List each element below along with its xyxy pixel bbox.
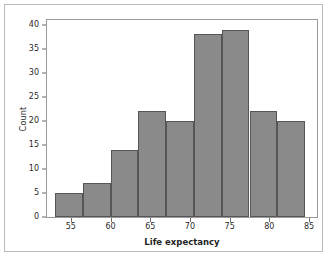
histogram-bar (222, 30, 250, 217)
y-axis-title: Count (19, 106, 28, 131)
y-tick-label: 5 (34, 189, 39, 197)
x-axis: 55606570758085 (46, 218, 318, 238)
histogram-bar (250, 111, 278, 217)
histogram-bar (138, 111, 166, 217)
histogram-bar (194, 34, 222, 217)
y-tick-label: 25 (29, 93, 39, 101)
x-tick-label: 70 (185, 223, 195, 231)
x-tick-label: 80 (264, 223, 274, 231)
y-tick-label: 20 (29, 117, 39, 125)
y-tick-label: 0 (34, 213, 39, 221)
y-tick-label: 15 (29, 141, 39, 149)
x-tick-label: 75 (225, 223, 235, 231)
y-axis: Count 0510152025303540 (5, 19, 46, 218)
x-axis-title: Life expectancy (46, 237, 318, 247)
histogram-bar (83, 183, 111, 217)
x-tick-label: 55 (66, 223, 76, 231)
histogram-bar (277, 121, 305, 217)
plot-area (47, 20, 317, 217)
x-tick-label: 60 (105, 223, 115, 231)
x-tick-label: 85 (304, 223, 314, 231)
plot-frame (46, 19, 318, 218)
y-tick-label: 10 (29, 165, 39, 173)
y-tick-label: 35 (29, 45, 39, 53)
histogram-bar (166, 121, 194, 217)
y-tick-label: 30 (29, 69, 39, 77)
histogram-bar (111, 150, 139, 217)
y-tick-label: 40 (29, 21, 39, 29)
figure-frame: Count 0510152025303540 55606570758085 Li… (4, 4, 323, 252)
x-tick-label: 65 (145, 223, 155, 231)
histogram-bar (55, 193, 83, 217)
